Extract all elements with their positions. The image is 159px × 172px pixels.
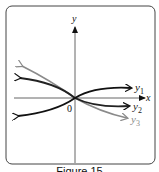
y-axis-label: y <box>71 13 77 24</box>
origin-label: 0 <box>67 103 72 114</box>
figure-caption: Figure 15 <box>0 165 159 172</box>
curve-y3-label: y3 <box>130 113 140 128</box>
figure-frame <box>6 6 155 164</box>
x-axis-label: x <box>145 92 151 103</box>
curve-y1-label: y1 <box>134 81 144 96</box>
figure-diagram: y x 0 y1 y2 y3 <box>0 0 159 172</box>
